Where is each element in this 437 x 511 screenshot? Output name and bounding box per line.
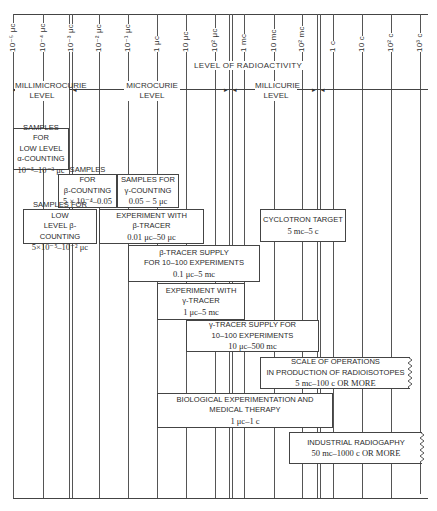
- box-line: LEVEL β-COUNTING: [26, 221, 94, 242]
- box-line: SAMPLES FOR: [16, 123, 66, 144]
- box-biological-medical: BIOLOGICAL EXPERIMENTATION AND MEDICAL T…: [157, 393, 333, 428]
- tick-label: 1 c: [328, 41, 337, 52]
- gridline-1e2-c: [391, 14, 392, 498]
- gridline-1-c: [333, 14, 334, 498]
- gridline-1e-2-uc: [99, 14, 100, 498]
- tick-label: 10⁻¹ μc: [123, 24, 132, 52]
- range-millicurie: MILLICURIE LEVEL: [255, 81, 297, 101]
- box-gamma-counting: SAMPLES FOR γ-COUNTING 0.05 − 5 μc: [117, 174, 179, 208]
- box-value: 50 mc–1000 c OR MORE: [292, 448, 420, 459]
- range-label-line1: MILLICURIE: [255, 81, 297, 91]
- tick-label: 10² μc: [210, 28, 219, 52]
- range-label-line1: MICROCURIE: [124, 81, 180, 91]
- tick-label: 1 mc: [239, 34, 248, 52]
- box-industrial-radiography: INDUSTRIAL RADIOGAPHY 50 mc–1000 c OR MO…: [289, 432, 422, 464]
- top-axis-line: [13, 14, 428, 15]
- box-beta-tracer-experiment: EXPERIMENT WITH β-TRACER 0.01 μc–50 μc: [99, 209, 204, 244]
- zigzag-break-icon: [406, 357, 414, 389]
- range-label-line2: LEVEL: [15, 91, 69, 101]
- bottom-baseline: [13, 498, 428, 499]
- tick-label: 10³ c: [415, 33, 424, 52]
- box-line: β-COUNTING: [61, 186, 114, 197]
- box-beta-tracer-supply: β-TRACER SUPPLY FOR 10–100 EXPERIMENTS 0…: [128, 245, 260, 282]
- range-label-line1: MILLIMICROCURIE: [15, 81, 69, 91]
- tick-label: 10 c: [357, 36, 366, 52]
- box-line: MEDICAL THERAPY: [160, 405, 330, 416]
- box-line: LOW LEVEL: [16, 144, 66, 155]
- box-line: INDUSTRIAL RADIOGAPHY: [292, 438, 420, 449]
- box-value: 5 mc–5 c: [263, 226, 343, 237]
- box-line: 10–100 EXPERIMENTS: [189, 331, 316, 342]
- box-line: SCALE OF OPERATIONS: [263, 357, 408, 368]
- box-cyclotron-target: CYCLOTRON TARGET 5 mc–5 c: [260, 209, 346, 242]
- box-value: 1 μc–5 mc: [160, 307, 242, 318]
- box-line: BIOLOGICAL EXPERIMENTATION AND: [160, 395, 330, 406]
- box-value: 0.01 μc–50 μc: [102, 232, 201, 243]
- box-line: β-TRACER: [102, 221, 201, 232]
- axis-title: LEVEL OF RADIOACTIVITY: [192, 61, 304, 70]
- box-value: 0.1 μc–5 mc: [131, 269, 257, 280]
- box-radioisotope-production: SCALE OF OPERATIONS IN PRODUCTION OF RAD…: [260, 357, 410, 389]
- box-line: α-COUNTING: [16, 154, 66, 165]
- box-line: SAMPLES FOR: [120, 175, 176, 186]
- arrow-left-icon: ◂: [321, 86, 325, 93]
- box-line: γ-COUNTING: [120, 186, 176, 197]
- box-value: 10 μc–500 mc: [189, 341, 316, 352]
- tick-label: 10⁻⁴ μc: [38, 23, 47, 52]
- tick-label: 10² mc: [297, 26, 306, 52]
- box-value: 5×10⁻⁵–10⁻² μc: [26, 242, 94, 253]
- zigzag-break-icon: [418, 432, 426, 464]
- arrow-right-icon: ▸: [224, 86, 228, 93]
- box-low-level-alpha-counting: SAMPLES FOR LOW LEVEL α-COUNTING 10⁻⁵–10…: [13, 128, 69, 170]
- box-value: 0.05 − 5 μc: [120, 196, 176, 207]
- tick-label: 10⁻³ μc: [66, 24, 75, 52]
- tick-label: 1 μc: [152, 36, 161, 52]
- box-value: 1 μc–1 c: [160, 416, 330, 427]
- box-line: EXPERIMENT WITH: [102, 211, 201, 222]
- tick-label: 10⁻² μc: [94, 24, 103, 52]
- range-label-line2: LEVEL: [255, 91, 297, 101]
- box-gamma-tracer-experiment: EXPERIMENT WITH γ-TRACER 1 μc–5 mc: [157, 283, 245, 320]
- box-gamma-tracer-supply: γ-TRACER SUPPLY FOR 10–100 EXPERIMENTS 1…: [186, 320, 319, 352]
- box-line: SAMPLES FOR LOW: [26, 200, 94, 221]
- radioactivity-level-diagram: 10⁻⁵ μc 10⁻⁴ μc 10⁻³ μc 10⁻² μc 10⁻¹ μc …: [0, 0, 437, 511]
- tick-label: 10 μc: [181, 31, 190, 52]
- range-millimicrocurie: MILLIMICROCURIE LEVEL: [15, 81, 69, 101]
- box-line: EXPERIMENT WITH: [160, 286, 242, 297]
- box-line: FOR 10–100 EXPERIMENTS: [131, 258, 257, 269]
- box-value: 5 mc–100 c OR MORE: [263, 378, 408, 389]
- arrow-left-icon: ◂: [233, 86, 237, 93]
- box-line: CYCLOTRON TARGET: [263, 215, 343, 226]
- range-label-line2: LEVEL: [124, 91, 180, 101]
- box-line: SAMPLES FOR: [61, 165, 114, 186]
- box-line: γ-TRACER SUPPLY FOR: [189, 320, 316, 331]
- gridline-10-c: [362, 14, 363, 498]
- tick-label: 10⁻⁵ μc: [8, 23, 17, 52]
- arrow-right-icon: ▸: [312, 86, 316, 93]
- range-microcurie: MICROCURIE LEVEL: [124, 81, 180, 101]
- gridline-1e3-c: [420, 14, 421, 494]
- box-line: γ-TRACER: [160, 296, 242, 307]
- box-low-level-beta-counting: SAMPLES FOR LOW LEVEL β-COUNTING 5×10⁻⁵–…: [23, 209, 97, 244]
- box-line: IN PRODUCTION OF RADIOISOTOPES: [263, 368, 408, 379]
- box-line: β-TRACER SUPPLY: [131, 248, 257, 259]
- tick-label: 10 mc: [269, 29, 278, 52]
- tick-label: 10² c: [386, 33, 395, 52]
